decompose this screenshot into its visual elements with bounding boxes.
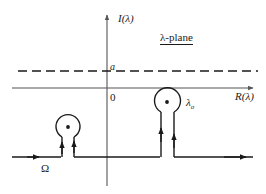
contour-diagram-canvas [0, 0, 266, 194]
pole-label-subscript: o [191, 103, 195, 111]
pole-label-lambda-zero: λo [186, 97, 194, 111]
real-axis-label: R(λ) [235, 91, 254, 102]
plane-label: λ-plane [160, 32, 193, 45]
left-pole-dot [66, 125, 70, 129]
right-pole-dot [165, 100, 169, 104]
right-loop-circle [155, 88, 181, 112]
dashed-line-height-label: a [110, 62, 115, 72]
contour-label-omega: Ω [41, 163, 49, 174]
origin-label: 0 [110, 92, 116, 103]
lambda-plane-figure: I(λ) R(λ) λ-plane a 0 λo Ω [0, 0, 266, 194]
imaginary-axis-label: I(λ) [118, 13, 134, 24]
